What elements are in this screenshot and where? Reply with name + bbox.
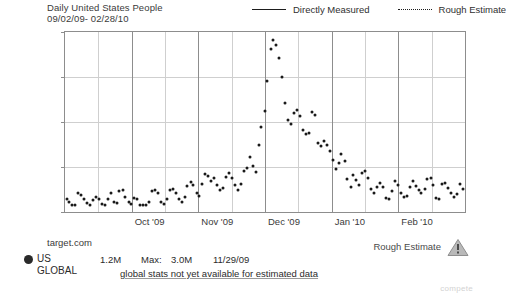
x-gridline-minor bbox=[298, 32, 299, 212]
data-point bbox=[462, 187, 465, 190]
data-point bbox=[216, 184, 219, 187]
data-point bbox=[201, 182, 204, 185]
data-point bbox=[260, 125, 263, 128]
data-point bbox=[414, 184, 417, 187]
legend-label: Directly Measured bbox=[293, 4, 370, 15]
data-point bbox=[242, 169, 245, 172]
data-point bbox=[109, 191, 112, 194]
data-point bbox=[408, 185, 411, 188]
data-point bbox=[290, 123, 293, 126]
data-point bbox=[245, 166, 248, 169]
x-axis-label: Oct '09 bbox=[135, 216, 165, 227]
data-point bbox=[367, 177, 370, 180]
scatter-plot-area bbox=[64, 31, 466, 213]
y-axis-tick bbox=[61, 212, 65, 213]
data-point bbox=[423, 187, 426, 190]
max-label: Max: bbox=[141, 254, 162, 265]
data-point bbox=[89, 203, 92, 206]
data-point bbox=[334, 167, 337, 170]
data-point bbox=[322, 139, 325, 142]
x-axis-label: Jan '10 bbox=[335, 216, 365, 227]
data-point bbox=[370, 187, 373, 190]
x-gridline-minor bbox=[232, 32, 233, 212]
data-point bbox=[281, 76, 284, 79]
data-point bbox=[207, 175, 210, 178]
data-point bbox=[453, 196, 456, 199]
data-point bbox=[456, 193, 459, 196]
legend-item-directly-measured: Directly Measured bbox=[252, 4, 370, 15]
data-point bbox=[420, 191, 423, 194]
data-point bbox=[287, 118, 290, 121]
region-global-label[interactable]: GLOBAL bbox=[37, 265, 77, 276]
data-point bbox=[145, 204, 148, 207]
region-selected-bullet-icon[interactable] bbox=[24, 255, 33, 264]
page-title: Daily United States People bbox=[47, 2, 163, 13]
data-point bbox=[272, 38, 275, 41]
dotted-line-swatch-icon bbox=[398, 9, 432, 10]
legend-item-rough-estimate: Rough Estimate bbox=[398, 4, 506, 15]
data-point bbox=[136, 198, 139, 201]
data-point bbox=[325, 143, 328, 146]
data-point bbox=[263, 109, 266, 112]
data-point bbox=[130, 202, 133, 205]
data-point bbox=[296, 109, 299, 112]
data-point bbox=[349, 185, 352, 188]
data-point bbox=[92, 199, 95, 202]
rough-estimate-note: Rough Estimate bbox=[373, 241, 441, 252]
data-point bbox=[394, 179, 397, 182]
data-point bbox=[331, 158, 334, 161]
data-point bbox=[98, 197, 101, 200]
y-axis-tick bbox=[61, 32, 65, 33]
x-gridline-minor bbox=[165, 32, 166, 212]
data-point bbox=[124, 196, 127, 199]
data-point bbox=[429, 177, 432, 180]
data-point bbox=[266, 79, 269, 82]
region-us-label[interactable]: US bbox=[37, 253, 51, 264]
data-point bbox=[340, 153, 343, 156]
x-axis-label: Dec '09 bbox=[268, 216, 300, 227]
data-point bbox=[352, 173, 355, 176]
data-point bbox=[230, 177, 233, 180]
data-point bbox=[162, 202, 165, 205]
x-gridline-major bbox=[265, 32, 266, 212]
data-point bbox=[355, 178, 358, 181]
data-point bbox=[171, 187, 174, 190]
data-point bbox=[328, 149, 331, 152]
y-axis-tick bbox=[61, 167, 65, 168]
data-point bbox=[278, 56, 281, 59]
data-point bbox=[379, 181, 382, 184]
data-point bbox=[275, 43, 278, 46]
data-point bbox=[222, 187, 225, 190]
data-point bbox=[174, 192, 177, 195]
data-point bbox=[240, 183, 243, 186]
x-gridline-major bbox=[198, 32, 199, 212]
data-point bbox=[382, 185, 385, 188]
data-point bbox=[121, 189, 124, 192]
data-point bbox=[74, 204, 77, 207]
x-gridline-minor bbox=[98, 32, 99, 212]
data-point bbox=[411, 180, 414, 183]
data-point bbox=[390, 190, 393, 193]
max-value: 3.0M bbox=[171, 254, 192, 265]
data-point bbox=[115, 202, 118, 205]
x-axis-label: Feb '10 bbox=[401, 216, 432, 227]
global-stats-note[interactable]: global stats not yet available for estim… bbox=[120, 268, 318, 279]
data-point bbox=[459, 182, 462, 185]
data-point bbox=[337, 162, 340, 165]
data-point bbox=[236, 189, 239, 192]
data-point bbox=[302, 129, 305, 132]
data-point bbox=[157, 192, 160, 195]
chart-legend: Directly Measured Rough Estimate bbox=[252, 4, 506, 15]
y-axis-tick bbox=[61, 122, 65, 123]
data-point bbox=[192, 184, 195, 187]
watermark-label: compete bbox=[440, 284, 473, 293]
data-point bbox=[225, 175, 228, 178]
data-point bbox=[343, 160, 346, 163]
data-point bbox=[358, 184, 361, 187]
x-gridline-major bbox=[332, 32, 333, 212]
data-point bbox=[80, 193, 83, 196]
data-point bbox=[198, 194, 201, 197]
data-point bbox=[104, 204, 107, 207]
data-point bbox=[396, 184, 399, 187]
